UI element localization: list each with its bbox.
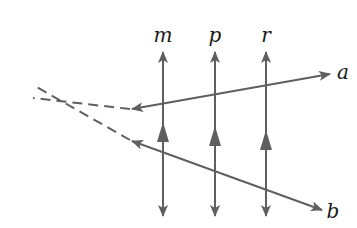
line-p	[209, 52, 221, 216]
label-a: a	[337, 60, 349, 84]
label-r: r	[261, 23, 272, 47]
dashed-extension-b	[33, 85, 130, 140]
line-a	[33, 74, 330, 109]
label-p: p	[209, 23, 222, 47]
parallel-arrow-icon	[209, 126, 221, 146]
label-b: b	[327, 199, 340, 223]
dashed-extension-a	[33, 98, 130, 109]
parallel-arrow-icon	[260, 130, 272, 150]
parallel-arrow-icon	[157, 122, 169, 142]
parallel-lines-diagram: m p r a b	[0, 0, 357, 228]
label-m: m	[154, 23, 173, 47]
line-m	[157, 52, 169, 216]
